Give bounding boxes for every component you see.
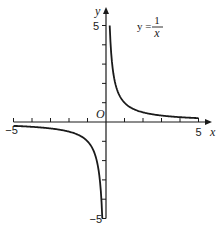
equation-numerator: 1 bbox=[154, 14, 160, 26]
curve-negative-branch bbox=[14, 126, 103, 219]
equation-denominator: x bbox=[153, 26, 160, 40]
y-axis-label: y bbox=[94, 4, 101, 18]
x-axis-label: x bbox=[209, 125, 216, 139]
hyperbola-chart: −555−5xyOy =1x bbox=[0, 0, 221, 233]
origin-label: O bbox=[96, 107, 105, 121]
axes bbox=[14, 7, 213, 219]
y-tick-label: 5 bbox=[93, 20, 99, 32]
y-tick-label: −5 bbox=[89, 213, 102, 225]
x-tick-label: −5 bbox=[5, 124, 18, 136]
y-axis-arrow-icon bbox=[103, 7, 109, 14]
equation-lhs: y = bbox=[137, 20, 151, 32]
x-tick-label: 5 bbox=[195, 126, 201, 138]
